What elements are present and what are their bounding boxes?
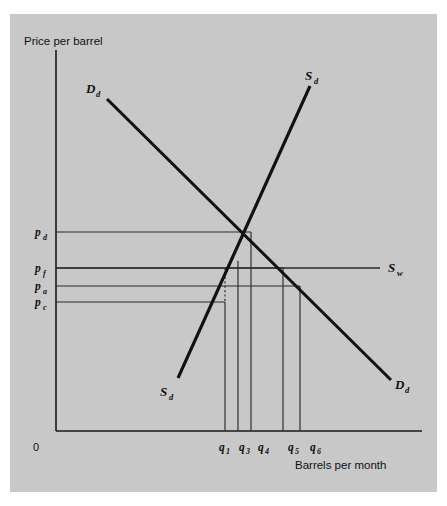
price-tick-label-p-c: p c xyxy=(34,296,47,312)
quantity-tick-label-q-4: q 4 xyxy=(258,441,269,456)
curve-label-supply-top-sub: d xyxy=(314,76,319,86)
curve-label-supply-bottom: S d xyxy=(160,384,174,402)
quantity-tick-q-5-base: q xyxy=(288,441,294,454)
demand-curve-dd xyxy=(107,99,391,380)
quantity-tick-q-4-base: q xyxy=(258,441,264,454)
quantity-tick-q-6-base: q xyxy=(310,441,316,454)
quantity-tick-label-q-6: q 6 xyxy=(310,441,321,456)
quantity-tick-q-6-sub: 6 xyxy=(317,447,321,456)
quantity-tick-q-1-base: q xyxy=(219,441,225,454)
quantity-tick-q-3-sub: 3 xyxy=(245,447,250,456)
price-tick-p-a-sub: a xyxy=(43,287,47,296)
x-axis-title: Barrels per month xyxy=(295,459,386,471)
price-tick-p-f-base: p xyxy=(34,262,41,275)
quantity-drop-lines xyxy=(225,232,300,431)
quantity-tick-q-1-sub: 1 xyxy=(226,447,230,456)
price-tick-p-d-base: p xyxy=(34,226,41,239)
curve-label-demand-bottom: D d xyxy=(394,377,410,395)
figure-root: Price per barrel Barrels per month 0 D d… xyxy=(0,0,447,506)
price-guide-lines xyxy=(56,232,300,302)
curve-label-demand-top-sub: d xyxy=(96,89,101,99)
price-tick-label-p-a: p a xyxy=(34,280,47,296)
curve-label-demand-bottom-sub: d xyxy=(405,385,410,395)
curve-label-demand-top: D d xyxy=(85,81,101,99)
price-tick-label-p-f: p f xyxy=(34,262,47,278)
curve-label-world-supply-sub: w xyxy=(397,268,403,278)
curve-label-demand-top-base: D xyxy=(85,81,96,96)
supply-demand-chart: Price per barrel Barrels per month 0 D d… xyxy=(10,14,437,492)
curve-label-supply-top-base: S xyxy=(305,68,312,83)
price-tick-p-c-sub: c xyxy=(43,303,47,312)
price-tick-label-p-d: p d xyxy=(34,226,48,242)
quantity-tick-q-3-base: q xyxy=(239,441,245,454)
quantity-tick-label-q-5: q 5 xyxy=(288,441,299,456)
y-axis-title: Price per barrel xyxy=(24,35,103,47)
origin-label: 0 xyxy=(33,441,39,453)
quantity-tick-label-q-1: q 1 xyxy=(219,441,230,456)
price-tick-p-d-sub: d xyxy=(43,233,48,242)
curve-label-supply-bottom-base: S xyxy=(160,384,167,399)
curve-label-demand-bottom-base: D xyxy=(394,377,405,392)
curves-group xyxy=(107,86,391,380)
price-tick-p-a-base: p xyxy=(34,280,41,293)
figure-panel: Price per barrel Barrels per month 0 D d… xyxy=(10,14,437,492)
curve-label-world-supply: S w xyxy=(388,260,403,278)
quantity-tick-q-5-sub: 5 xyxy=(295,447,299,456)
curve-label-supply-top: S d xyxy=(305,68,319,86)
price-tick-p-c-base: p xyxy=(34,296,41,309)
curve-label-world-supply-base: S xyxy=(388,260,395,275)
price-tick-p-f-sub: f xyxy=(43,269,47,278)
quantity-tick-label-q-3: q 3 xyxy=(239,441,250,456)
curve-label-supply-bottom-sub: d xyxy=(169,392,174,402)
quantity-tick-q-4-sub: 4 xyxy=(264,447,269,456)
